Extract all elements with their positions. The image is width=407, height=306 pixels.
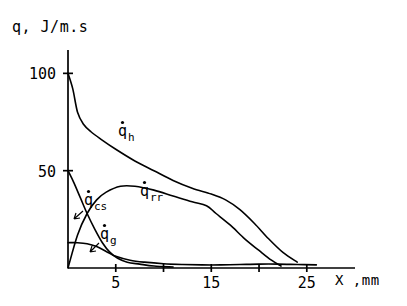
y-axis-ticks: 50100 (29, 65, 73, 180)
leader-line-qcs (74, 211, 83, 219)
overdot-icon (143, 181, 146, 184)
curve-label-q_rr: qrr (140, 181, 164, 204)
curve-label-subscript: cs (94, 200, 107, 213)
curve-label-subscript: g (110, 234, 117, 247)
curve-label-q_h: qh (118, 121, 135, 144)
overdot-icon (121, 121, 124, 124)
scientific-figure: q, J/m.s X ,mm 51525 50100 qhqrrqcsqg (0, 0, 407, 306)
x-tick-label: 5 (111, 274, 120, 292)
curve-label-subscript: rr (150, 191, 164, 204)
y-tick-label: 100 (29, 65, 56, 83)
curve-label-base: q (118, 122, 127, 140)
curve-label-base: q (140, 182, 149, 200)
y-axis-title: q, J/m.s (12, 18, 88, 36)
x-tick-label: 25 (298, 274, 316, 292)
y-tick-label: 50 (38, 163, 56, 181)
overdot-icon (103, 224, 106, 227)
curve-labels: qhqrrqcsqg (84, 121, 164, 247)
x-axis-title: X ,mm (335, 272, 380, 288)
curve-label-base: q (84, 191, 93, 209)
x-tick-label: 15 (202, 274, 220, 292)
curve-label-subscript: h (128, 131, 135, 144)
curve-label-base: q (100, 225, 109, 243)
plot-area: 51525 50100 qhqrrqcsqg (0, 0, 407, 306)
overdot-icon (87, 190, 90, 193)
